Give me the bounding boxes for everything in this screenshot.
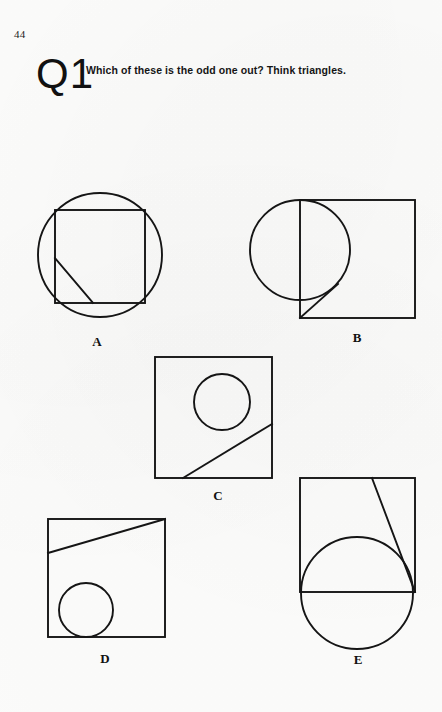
figure-label-b: B: [342, 330, 372, 346]
figure-labels: A B C D E: [0, 0, 442, 712]
puzzle-page: 44 Q1 Which of these is the odd one out?…: [0, 0, 442, 712]
figure-label-d: D: [90, 651, 120, 667]
figure-label-a: A: [82, 334, 112, 350]
figure-label-e: E: [343, 652, 373, 668]
figure-label-c: C: [203, 488, 233, 504]
